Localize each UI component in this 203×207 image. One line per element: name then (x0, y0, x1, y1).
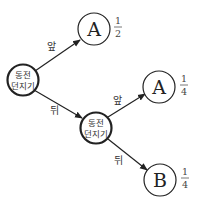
edge-label-heads: 앞 (113, 95, 122, 106)
outcome-label: A (86, 18, 101, 40)
probability-numerator: 1 (181, 73, 187, 84)
outcome-label: B (153, 169, 167, 191)
edge-label-heads: 앞 (47, 41, 56, 52)
coin-toss-label-line1: 동전 (88, 118, 104, 128)
probability-denominator: 4 (181, 86, 187, 97)
outcome-node-bottom: B 1 4 (144, 164, 189, 196)
coin-toss-label-line2: 던지기 (84, 129, 108, 139)
edge-root-to-top (35, 40, 80, 71)
probability-denominator: 4 (182, 179, 188, 190)
probability-denominator: 2 (115, 28, 121, 39)
edge-label-tails: 뒤 (114, 155, 123, 166)
probability-numerator: 1 (182, 166, 188, 177)
outcome-node-top: A 1 2 (78, 13, 122, 45)
coin-toss-label-line1: 동전 (15, 70, 31, 80)
probability-tree-diagram: 앞 뒤 앞 뒤 동전 던지기 동전 던지기 A 1 2 A 1 4 B 1 4 (0, 0, 203, 207)
probability-numerator: 1 (115, 15, 121, 26)
coin-toss-node-root: 동전 던지기 (8, 65, 39, 96)
coin-toss-node-second: 동전 던지기 (81, 113, 112, 144)
outcome-node-middle: A 1 4 (143, 71, 188, 103)
edge-label-tails: 뒤 (50, 105, 59, 116)
outcome-label: A (151, 76, 166, 98)
coin-toss-label-line2: 던지기 (11, 81, 35, 91)
